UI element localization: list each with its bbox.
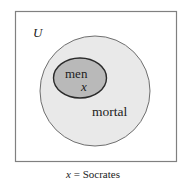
- caption-equals: =: [74, 168, 80, 180]
- caption-variable: x: [66, 168, 71, 180]
- element-x-label: x: [81, 80, 87, 93]
- venn-diagram: [0, 0, 186, 184]
- mortal-set-label: mortal: [92, 105, 127, 119]
- diagram-caption: x = Socrates: [0, 168, 186, 180]
- caption-value: Socrates: [83, 168, 120, 180]
- universe-label: U: [33, 26, 42, 39]
